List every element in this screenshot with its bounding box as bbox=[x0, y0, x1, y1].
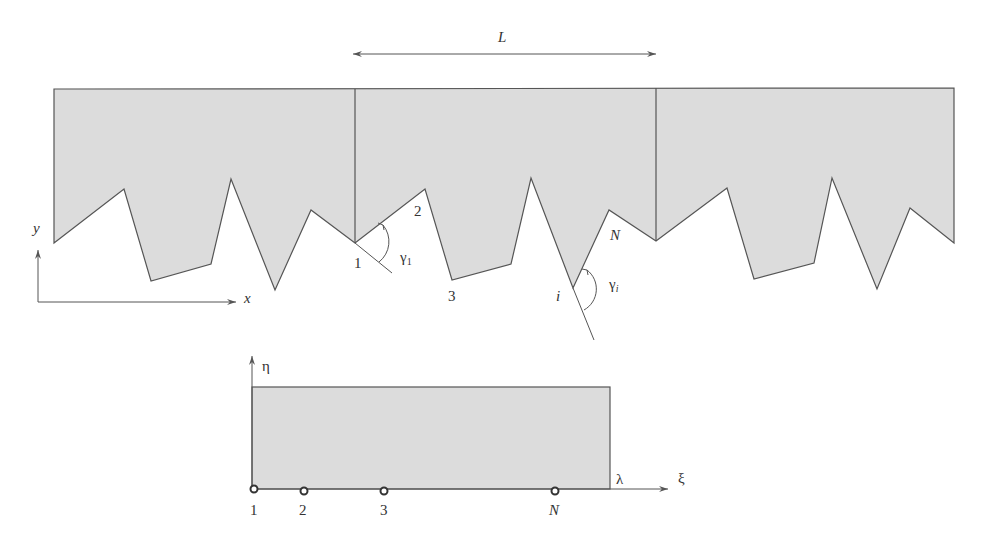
gamma-i-label: γi bbox=[608, 276, 619, 294]
node-label-3: 3 bbox=[448, 288, 456, 304]
periodic-surface-body bbox=[54, 88, 954, 290]
node-label-2: 2 bbox=[414, 203, 422, 219]
node-circle-1 bbox=[251, 486, 258, 493]
period-label-L: L bbox=[497, 29, 506, 45]
mapped-rectangle-domain bbox=[252, 387, 610, 489]
eta-axis-label: η bbox=[262, 358, 270, 374]
xi-axis-label: ξ bbox=[678, 470, 685, 486]
node-circle-N bbox=[552, 488, 559, 495]
node-label-1: 1 bbox=[354, 255, 362, 271]
node-circle-2 bbox=[301, 488, 308, 495]
node-label-N: N bbox=[609, 227, 621, 243]
gamma-1-arc bbox=[379, 225, 389, 262]
lambda-label: λ bbox=[616, 471, 624, 487]
x-axis-label: x bbox=[243, 290, 251, 306]
xi-node-label-N: N bbox=[548, 502, 560, 518]
gamma-1-label: γ1 bbox=[399, 249, 412, 267]
xi-node-label-3: 3 bbox=[380, 502, 388, 518]
gamma-i-arc bbox=[584, 270, 596, 310]
node-circle-3 bbox=[381, 488, 388, 495]
diagram-canvas: L 1 2 3 i N γ1 γi y x η ξ λ bbox=[0, 0, 982, 547]
y-axis-label: y bbox=[31, 220, 40, 236]
node-label-i: i bbox=[556, 288, 560, 304]
xi-node-label-1: 1 bbox=[250, 502, 258, 518]
xi-node-label-2: 2 bbox=[299, 502, 307, 518]
